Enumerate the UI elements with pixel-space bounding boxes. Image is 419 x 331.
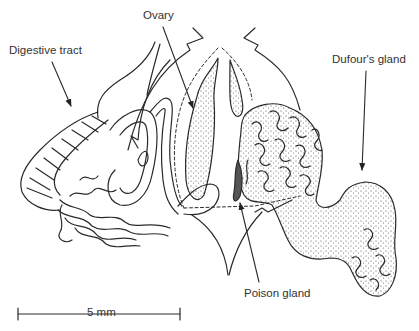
label-ovary: Ovary — [143, 9, 174, 22]
label-dufours-gland: Dufour's gland — [332, 53, 406, 66]
label-poison-gland: Poison gland — [244, 287, 311, 300]
dufours-gland-drawing — [238, 104, 396, 296]
scale-bar-label: 5 mm — [87, 306, 116, 319]
label-digestive-tract: Digestive tract — [9, 44, 82, 57]
